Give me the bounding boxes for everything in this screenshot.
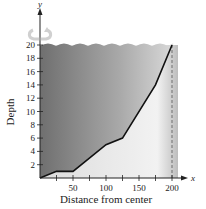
x-axis-arrow-icon [181,176,188,181]
y-tick-label: 20 [26,40,36,50]
y-tick-label: 12 [26,93,35,103]
y-tick-label: 10 [26,107,36,117]
y-tick-label: 14 [26,80,36,90]
x-tick-label: 100 [99,183,113,193]
pond-depth-chart: y x 2468101214161820 50100150200 Depth D… [0,0,206,209]
y-axis-arrow-icon [38,8,43,15]
x-tick-label: 200 [165,183,179,193]
y-tick-label: 8 [31,120,36,130]
x-axis-label: Distance from center [60,193,153,205]
y-tick-label: 2 [31,160,36,170]
y-axis-variable: y [37,0,42,9]
x-tick-label: 150 [132,183,146,193]
y-tick-label: 6 [31,133,36,143]
y-tick-label: 4 [31,146,36,156]
y-axis-label: Depth [4,98,16,125]
y-tick-label: 16 [26,67,36,77]
y-tick-label: 18 [26,53,36,63]
x-tick-label: 50 [69,183,79,193]
x-axis-variable: x [190,173,195,183]
